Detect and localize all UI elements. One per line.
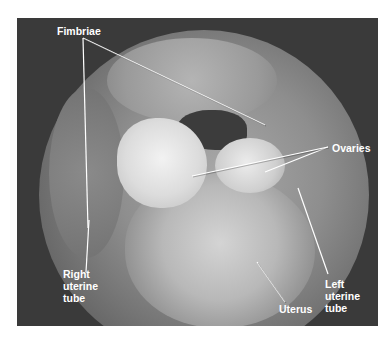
label-left-uterine-tube: Left uterine tube (325, 278, 360, 314)
label-right-uterine-tube: Right uterine tube (63, 268, 98, 304)
right-ovary-shape (117, 118, 207, 208)
fimbriae-tissue (107, 38, 277, 123)
right-tube-tissue (49, 88, 124, 258)
label-fimbriae: Fimbriae (57, 25, 101, 37)
label-uterus: Uterus (279, 303, 312, 315)
left-ovary-shape (215, 138, 285, 193)
label-ovaries: Ovaries (332, 142, 371, 154)
